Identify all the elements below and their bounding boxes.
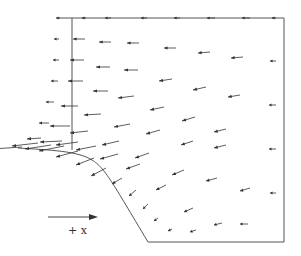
vector-arrow: [135, 153, 149, 158]
vector-head: [50, 124, 54, 127]
vector-arrow: [61, 104, 78, 107]
vector-arrow: [242, 16, 250, 19]
vector-arrow: [181, 141, 193, 145]
vector-arrow: [184, 208, 193, 212]
domain-boundary: [18, 18, 284, 242]
vector-arrow: [0, 147, 22, 150]
vector-arrow: [54, 37, 59, 40]
vector-arrow: [12, 143, 38, 147]
vector-arrow: [198, 51, 210, 54]
vector-head: [68, 79, 72, 82]
vector-arrow: [272, 16, 276, 19]
vector-head: [124, 68, 128, 71]
vector-head: [56, 143, 60, 146]
vector-arrow: [172, 170, 184, 175]
vector-arrow: [114, 124, 130, 128]
vector-arrow: [27, 137, 41, 140]
direction-indicator: + x: [48, 214, 98, 237]
vector-arrow: [56, 142, 78, 146]
vector-head: [76, 162, 80, 165]
vector-arrow: [270, 59, 276, 62]
vector-arrow: [231, 56, 243, 59]
vector-arrow: [50, 124, 70, 127]
vector-arrow: [39, 121, 49, 124]
vector-arrow: [40, 140, 62, 143]
vector-head: [270, 191, 273, 194]
vector-head: [99, 40, 103, 43]
vector-arrow: [124, 68, 138, 71]
vector-head: [76, 148, 80, 151]
vector-arrow: [76, 146, 96, 151]
direction-label: + x: [68, 224, 88, 237]
vector-arrow: [193, 87, 206, 91]
vector-head: [39, 121, 42, 124]
vector-head: [172, 172, 176, 175]
vector-head: [56, 154, 60, 157]
vector-arrow: [240, 188, 250, 192]
vector-arrow: [93, 89, 108, 92]
vector-arrow: [84, 113, 101, 116]
vector-arrow: [99, 40, 111, 43]
vector-arrow: [118, 96, 134, 99]
vector-arrow: [168, 228, 172, 231]
vector-head: [242, 16, 245, 19]
vector-arrow: [174, 16, 180, 19]
vector-arrow: [68, 79, 83, 82]
direction-arrow-head: [89, 214, 98, 220]
vector-head: [73, 37, 77, 40]
vector-arrow: [150, 107, 164, 111]
vector-arrow: [127, 41, 139, 44]
vector-arrow: [91, 168, 106, 176]
vector-head: [207, 16, 210, 19]
vector-arrow: [51, 79, 58, 82]
vector-head: [141, 16, 144, 19]
vector-head: [96, 65, 100, 68]
vector-head: [182, 118, 186, 121]
vector-head: [84, 113, 88, 116]
vector-head: [40, 140, 44, 143]
velocity-vectors: [0, 16, 276, 232]
vector-arrow: [156, 185, 166, 190]
vector-head: [174, 16, 177, 19]
vector-arrow: [53, 58, 59, 61]
vector-arrow: [270, 191, 276, 194]
vector-head: [135, 155, 139, 158]
vector-head: [54, 37, 57, 40]
vector-arrow: [214, 129, 226, 133]
vector-arrow: [214, 145, 226, 149]
vector-head: [46, 100, 49, 103]
vector-arrow: [141, 16, 147, 19]
vector-arrow: [207, 16, 215, 19]
vector-head: [56, 16, 59, 19]
vector-head: [105, 16, 108, 19]
vector-head: [127, 41, 131, 44]
vector-head: [91, 173, 95, 176]
vector-arrow: [154, 218, 158, 221]
vector-arrow: [206, 178, 217, 182]
vector-arrow: [159, 79, 172, 82]
vector-arrow: [129, 190, 136, 196]
vector-arrow: [164, 46, 176, 49]
vector-arrow: [269, 103, 276, 106]
vector-head: [53, 58, 56, 61]
vector-arrow: [96, 65, 110, 68]
vector-head: [51, 79, 54, 82]
vector-arrow: [126, 164, 140, 169]
vector-head: [164, 46, 168, 49]
vector-arrow: [240, 222, 248, 225]
vector-arrow: [46, 100, 54, 103]
vector-arrow: [76, 158, 94, 165]
vector-head: [228, 95, 232, 98]
vector-head: [126, 166, 130, 169]
vector-arrow: [70, 131, 88, 134]
vector-arrow: [105, 16, 111, 19]
vector-arrow: [82, 16, 86, 19]
vector-head: [240, 222, 243, 225]
vector-head: [214, 223, 217, 226]
vector-arrow: [56, 16, 60, 19]
vector-arrow: [73, 37, 85, 40]
vector-head: [272, 16, 275, 19]
vector-arrow: [214, 223, 222, 226]
vector-head: [61, 104, 65, 107]
vector-arrow: [143, 204, 148, 209]
